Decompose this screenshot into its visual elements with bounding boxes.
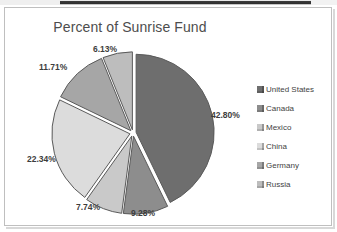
slice-label-germany: 11.71% — [39, 62, 67, 72]
legend-item[interactable]: United States — [257, 80, 337, 99]
screenshot-root: Percent of Sunrise Fund 42.80% 9.28% 7.7… — [0, 0, 337, 232]
legend-swatch-icon — [257, 124, 264, 131]
slice-label-china: 22.34% — [27, 154, 56, 164]
legend-item[interactable]: Germany — [257, 156, 337, 175]
legend-swatch-icon — [257, 162, 264, 169]
slice-label-canada: 9.28% — [131, 208, 155, 218]
chart-title: Percent of Sunrise Fund — [5, 19, 255, 35]
chart-frame-shadow-bottom — [6, 227, 335, 229]
legend-item[interactable]: Russia — [257, 175, 337, 194]
pie-svg — [53, 53, 213, 213]
chart-container[interactable]: Percent of Sunrise Fund 42.80% 9.28% 7.7… — [4, 7, 332, 226]
legend-item-label: China — [266, 142, 287, 151]
slice-label-russia: 6.13% — [93, 44, 117, 54]
legend-swatch-icon — [257, 105, 264, 112]
legend-item[interactable]: Canada — [257, 99, 337, 118]
legend-swatch-icon — [257, 181, 264, 188]
slice-label-united-states: 42.80% — [211, 110, 240, 120]
legend-swatch-icon — [257, 143, 264, 150]
slice-label-mexico: 7.74% — [76, 202, 100, 212]
legend-item-label: United States — [266, 85, 314, 94]
legend-item-label: Germany — [266, 161, 299, 170]
window-chrome-strip-left — [0, 0, 60, 5]
legend-item[interactable]: China — [257, 137, 337, 156]
pie-plot-area[interactable]: 42.80% 9.28% 7.74% 22.34% 11.71% 6.13% — [27, 42, 245, 224]
pie-graphic[interactable] — [53, 53, 213, 213]
legend-item-label: Canada — [266, 104, 294, 113]
legend-item-label: Russia — [266, 180, 290, 189]
legend-item-label: Mexico — [266, 123, 291, 132]
window-chrome-strip-right — [311, 0, 337, 5]
chart-legend[interactable]: United StatesCanadaMexicoChinaGermanyRus… — [257, 80, 337, 194]
legend-swatch-icon — [257, 86, 264, 93]
legend-item[interactable]: Mexico — [257, 118, 337, 137]
